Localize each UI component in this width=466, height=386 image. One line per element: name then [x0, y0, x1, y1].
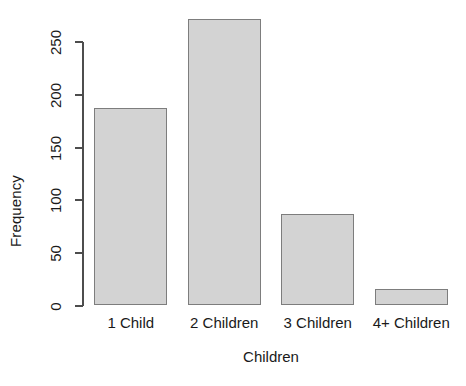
bar-chart: Frequency 050100150200250 1 Child2 Child…	[0, 0, 466, 386]
bar	[94, 108, 167, 305]
bar	[375, 289, 448, 305]
x-axis-title: Children	[84, 348, 458, 365]
y-axis-tick	[75, 94, 83, 96]
y-axis-tick-label: 100	[38, 193, 72, 207]
y-axis-tick	[75, 252, 83, 254]
y-axis-title-label: Frequency	[7, 175, 24, 247]
y-axis-tick-label-text: 150	[48, 131, 63, 165]
x-axis-tick-label: 4+ Children	[365, 312, 459, 334]
x-axis-tick-label: 1 Child	[84, 312, 178, 334]
y-axis-tick-label-text: 250	[48, 26, 63, 60]
x-axis-tick-label: 2 Children	[178, 312, 272, 334]
y-axis-tick	[75, 199, 83, 201]
y-axis-tick-label: 150	[38, 141, 72, 155]
x-axis-tick-label: 3 Children	[271, 312, 365, 334]
y-axis-tick-label: 200	[38, 88, 72, 102]
y-axis-tick	[75, 305, 83, 307]
x-axis-tick-labels: 1 Child2 Children3 Children4+ Children	[84, 312, 458, 336]
bar	[281, 214, 354, 305]
plot-area	[84, 8, 458, 306]
y-axis-tick-label: 250	[38, 35, 72, 49]
bar	[188, 19, 261, 305]
y-axis-tick	[75, 41, 83, 43]
y-axis-tick-label-text: 200	[48, 78, 63, 112]
y-axis-tick-label-text: 100	[48, 184, 63, 218]
y-axis-tick-label-text: 50	[48, 237, 63, 271]
y-axis-tick-label: 50	[38, 246, 72, 260]
y-axis-tick-label-text: 0	[48, 290, 63, 324]
y-axis-tick-label: 0	[38, 299, 72, 313]
y-axis-tick	[75, 147, 83, 149]
y-axis-title: Frequency	[0, 0, 30, 386]
